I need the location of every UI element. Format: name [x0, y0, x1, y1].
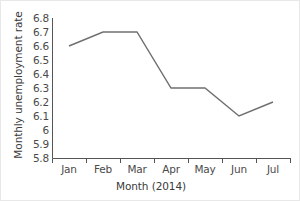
- x-tick-label: Jul: [253, 163, 293, 175]
- y-tick-label: 6.2: [19, 97, 49, 107]
- y-tick-label: 6.4: [19, 69, 49, 79]
- y-tick-label: 5.8: [19, 153, 49, 163]
- y-tick-label: 6: [19, 125, 49, 135]
- plot-area: [52, 16, 292, 160]
- y-tick-label: 6.3: [19, 83, 49, 93]
- y-tick-label: 5.9: [19, 139, 49, 149]
- line-chart: Monthly unemployment rate 6.8 6.7 6.6 6.…: [0, 0, 300, 201]
- y-tick-label: 6.5: [19, 55, 49, 65]
- y-tick-label: 6.6: [19, 41, 49, 51]
- data-line-unemployment-rate: [69, 32, 273, 116]
- y-tick-label: 6.7: [19, 27, 49, 37]
- x-axis-tick-labels: Jan Feb Mar Apr May Jun Jul: [1, 163, 300, 179]
- x-axis-title: Month (2014): [1, 180, 300, 192]
- y-tick-label: 6.1: [19, 111, 49, 121]
- y-tick-label: 6.8: [19, 13, 49, 23]
